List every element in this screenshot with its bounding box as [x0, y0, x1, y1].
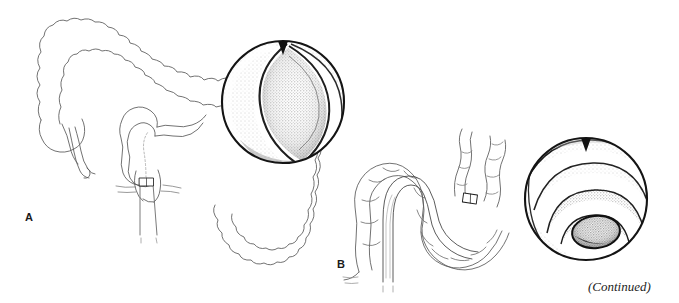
colonoscope-internal-path-a [144, 132, 149, 178]
descending-colon-continuation-2-b [484, 136, 491, 201]
colonoscope-shaft-b [383, 176, 478, 282]
rectum-right-wall [154, 170, 161, 202]
figure-container: A B (Continued) [0, 0, 679, 303]
panel-label-a: A [25, 211, 33, 223]
sigmoid-colon-outer [120, 107, 158, 185]
panel-label-b: B [337, 258, 345, 270]
continued-caption: (Continued) [588, 279, 651, 295]
colonoscope-tip-b [462, 193, 477, 204]
haustra-b [361, 168, 497, 261]
panel-b-endoscopic-view [523, 133, 653, 278]
colonoscope-shaft-end-a [141, 238, 157, 243]
panel-a-endoscopic-view [220, 33, 355, 168]
descending-colon-continuation-b [497, 140, 506, 207]
accessory-limb-outer-b [454, 129, 462, 196]
accessory-limb-inner-b [465, 132, 472, 198]
rectum-stub-b [344, 272, 359, 280]
sigmoid-loop-outer-b [355, 163, 502, 272]
anal-canal [143, 199, 154, 202]
sigmoid-descending-junction [157, 115, 206, 127]
colonoscope-shaft-end-b [383, 286, 393, 292]
sigmoid-descending-junction-2 [155, 123, 203, 137]
colonoscope-shaft-a [140, 184, 157, 235]
panel-b-sigmoid-anatomy [343, 129, 509, 292]
sigmoid-colon-inner [127, 123, 155, 187]
